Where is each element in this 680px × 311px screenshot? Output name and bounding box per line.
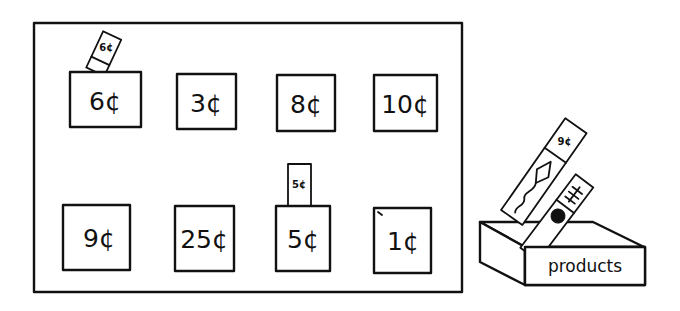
products-box-front: products — [525, 247, 645, 285]
inserted-card-5-label: 5¢ — [292, 179, 306, 190]
products-box-label: products — [548, 256, 622, 276]
price-box-9-label: 9¢ — [83, 224, 115, 253]
price-box-3-label: 3¢ — [190, 89, 222, 118]
price-box-10-label: 10¢ — [381, 90, 429, 119]
price-box-6-label: 6¢ — [89, 87, 121, 116]
price-box-8-label: 8¢ — [290, 90, 322, 119]
price-box-5[interactable]: 5¢ — [276, 206, 330, 271]
price-box-8[interactable]: 8¢ — [277, 75, 335, 131]
price-box-25-label: 25¢ — [180, 225, 228, 254]
inserted-card-5[interactable]: 5¢ — [288, 164, 311, 207]
inserted-card-6[interactable]: 6¢ — [86, 31, 121, 76]
price-box-6[interactable]: 6¢ — [70, 72, 141, 127]
price-box-10[interactable]: 10¢ — [374, 75, 437, 131]
price-box-3[interactable]: 3¢ — [177, 74, 236, 129]
price-box-1-label: 1¢ — [387, 227, 419, 256]
product-card-kite-price: 9¢ — [558, 136, 572, 147]
diagram-canvas: 6¢ 6¢ 3¢ 8¢ 10¢ 9¢ 25¢ 5¢ 5¢ 1¢ — [0, 0, 680, 311]
price-box-5-label: 5¢ — [287, 225, 319, 254]
price-box-9[interactable]: 9¢ — [63, 205, 130, 270]
price-box-1[interactable]: 1¢ — [374, 208, 431, 273]
price-box-25[interactable]: 25¢ — [175, 206, 234, 271]
inserted-card-6-label: 6¢ — [99, 42, 113, 53]
